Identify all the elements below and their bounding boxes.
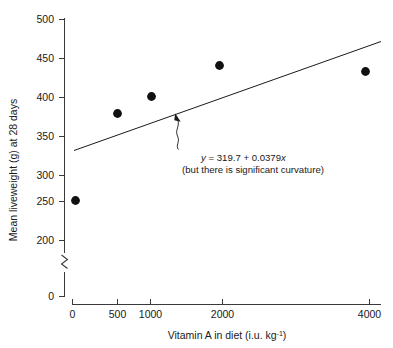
chart-figure: 500 450 400 350 300 250 200 0 Mean livew… bbox=[0, 0, 393, 348]
x-tick-label-500: 500 bbox=[109, 308, 127, 320]
data-point bbox=[147, 92, 156, 101]
y-tick-label-250: 250 bbox=[36, 195, 54, 207]
annotation-leader-line bbox=[177, 120, 179, 150]
regression-equation-label: y = 319.7 + 0.0379x bbox=[200, 152, 287, 163]
data-point bbox=[215, 61, 224, 70]
y-axis-title: Mean liveweight (g) at 28 days bbox=[7, 99, 19, 241]
annotation-arrowhead-icon bbox=[174, 113, 180, 122]
x-tick-label-4000: 4000 bbox=[358, 308, 382, 320]
x-axis-title-close: ) bbox=[283, 329, 287, 341]
x-axis-title-main: Vitamin A in diet (i.u. kg bbox=[168, 329, 277, 341]
y-tick-label-400: 400 bbox=[36, 91, 54, 103]
curvature-note-label: (but there is significant curvature) bbox=[182, 164, 324, 175]
data-point bbox=[113, 109, 122, 118]
x-tick-label-2000: 2000 bbox=[211, 308, 235, 320]
y-tick-label-200: 200 bbox=[36, 234, 54, 246]
y-tick-label-300: 300 bbox=[36, 169, 54, 181]
annotation-leader bbox=[174, 113, 180, 149]
equation-body: = 319.7 + 0.0379 bbox=[206, 152, 281, 163]
regression-line bbox=[74, 42, 381, 151]
scatter-plot: 500 450 400 350 300 250 200 0 Mean livew… bbox=[0, 0, 393, 348]
equation-x-symbol: x bbox=[280, 152, 287, 163]
x-tick-label-0: 0 bbox=[70, 308, 76, 320]
data-point bbox=[361, 67, 370, 76]
y-axis: 500 450 400 350 300 250 200 0 bbox=[36, 13, 67, 302]
y-axis-break-icon bbox=[62, 255, 68, 269]
x-axis: 0 500 1000 2000 4000 bbox=[70, 299, 382, 320]
x-axis-title: Vitamin A in diet (i.u. kg-1) bbox=[168, 329, 287, 341]
x-tick-label-1000: 1000 bbox=[139, 308, 163, 320]
y-tick-label-500: 500 bbox=[36, 13, 54, 25]
y-tick-label-350: 350 bbox=[36, 130, 54, 142]
y-tick-label-450: 450 bbox=[36, 52, 54, 64]
y-tick-label-0: 0 bbox=[48, 290, 54, 302]
data-point bbox=[71, 196, 80, 205]
data-points bbox=[71, 61, 370, 205]
